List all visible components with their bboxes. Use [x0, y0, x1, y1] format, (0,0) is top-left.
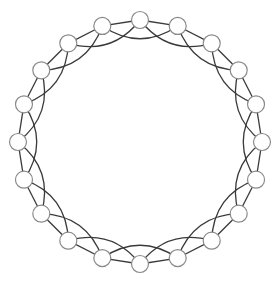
graph-node-13 [33, 205, 50, 222]
circulant-graph-diagram [0, 0, 278, 286]
graph-node-5 [254, 134, 271, 151]
graph-node-15 [10, 134, 27, 151]
edge-layer [18, 20, 262, 264]
graph-node-14 [15, 171, 32, 188]
graph-node-17 [33, 62, 50, 79]
graph-node-3 [230, 62, 247, 79]
graph-node-4 [248, 96, 265, 113]
graph-node-2 [203, 35, 220, 52]
graph-node-16 [15, 96, 32, 113]
graph-node-11 [94, 250, 111, 267]
graph-node-12 [60, 232, 77, 249]
graph-node-1 [169, 17, 186, 34]
graph-node-18 [60, 35, 77, 52]
graph-node-8 [203, 232, 220, 249]
graph-node-6 [248, 171, 265, 188]
node-layer [10, 12, 271, 273]
graph-node-0 [132, 12, 149, 29]
graph-node-9 [169, 250, 186, 267]
graph-node-19 [94, 17, 111, 34]
graph-node-10 [132, 256, 149, 273]
graph-node-7 [230, 205, 247, 222]
